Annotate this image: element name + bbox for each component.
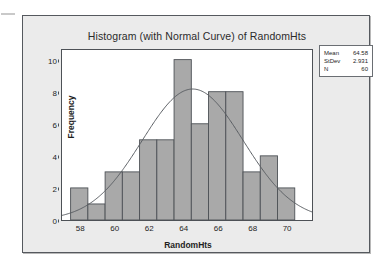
x-tick-label: 60 bbox=[110, 224, 119, 233]
x-tick-mark bbox=[148, 220, 151, 221]
statistics-value: 64.58 bbox=[353, 49, 368, 57]
histogram-bar bbox=[122, 172, 139, 220]
x-tick-label: 68 bbox=[248, 224, 257, 233]
y-tick-mark bbox=[58, 187, 59, 190]
x-tick-mark bbox=[79, 220, 82, 221]
chart-title: Histogram (with Normal Curve) of RandomH… bbox=[23, 30, 371, 42]
x-tick-mark bbox=[234, 220, 237, 221]
statistics-key: StDev bbox=[324, 57, 344, 65]
x-tick-mark bbox=[165, 220, 168, 221]
histogram-bar bbox=[243, 172, 260, 220]
y-tick-mark bbox=[58, 155, 59, 158]
x-axis-label: RandomHts bbox=[62, 240, 314, 250]
histogram-bar bbox=[71, 188, 88, 220]
histogram-bar bbox=[140, 140, 157, 220]
x-tick-mark bbox=[217, 220, 220, 221]
y-tick-label: 6 bbox=[53, 120, 57, 129]
x-tick-label: 64 bbox=[179, 224, 188, 233]
y-tick-mark bbox=[58, 59, 59, 62]
y-tick-label: 8 bbox=[53, 88, 57, 97]
x-tick-label: 66 bbox=[214, 224, 223, 233]
y-tick-label: 10 bbox=[48, 56, 57, 65]
y-tick-label: 4 bbox=[53, 152, 57, 161]
plot-inner bbox=[62, 50, 312, 220]
histogram-bar bbox=[88, 204, 105, 220]
x-tick-label: 58 bbox=[76, 224, 85, 233]
y-tick-mark bbox=[58, 91, 59, 94]
statistics-row: N60 bbox=[324, 65, 368, 73]
x-tick-mark bbox=[286, 220, 289, 221]
histogram-svg bbox=[62, 50, 312, 220]
histogram-bar bbox=[226, 92, 243, 220]
statistics-value: 60 bbox=[361, 65, 368, 73]
x-tick-mark bbox=[268, 220, 271, 221]
histogram-bar bbox=[278, 188, 295, 220]
histogram-bar bbox=[191, 124, 208, 220]
statistics-box: Mean64.58StDev2.931N60 bbox=[319, 45, 373, 77]
statistics-row: Mean64.58 bbox=[324, 49, 368, 57]
x-tick-mark bbox=[113, 220, 116, 221]
statistics-value: 2.931 bbox=[353, 57, 368, 65]
x-tick-mark bbox=[199, 220, 202, 221]
histogram-bar bbox=[157, 140, 174, 220]
x-tick-mark bbox=[96, 220, 99, 221]
x-tick-mark bbox=[182, 220, 185, 221]
histogram-bar bbox=[174, 60, 191, 220]
statistics-row: StDev2.931 bbox=[324, 57, 368, 65]
histogram-chart-root: Histogram (with Normal Curve) of RandomH… bbox=[0, 0, 390, 271]
plot-area: 0246810 58606264666870 Frequency RandomH… bbox=[61, 49, 313, 221]
statistics-key: Mean bbox=[324, 49, 343, 57]
chart-frame: Histogram (with Normal Curve) of RandomH… bbox=[22, 15, 370, 253]
x-tick-label: 70 bbox=[283, 224, 292, 233]
scan-artifact bbox=[1, 13, 15, 15]
y-tick-label: 2 bbox=[53, 184, 57, 193]
histogram-bar bbox=[105, 172, 122, 220]
y-tick-mark bbox=[58, 220, 59, 223]
statistics-key: N bbox=[324, 65, 332, 73]
y-tick-mark bbox=[58, 123, 59, 126]
x-tick-label: 62 bbox=[145, 224, 154, 233]
x-tick-mark bbox=[130, 220, 133, 221]
y-axis-label: Frequency bbox=[66, 82, 76, 152]
x-tick-mark bbox=[251, 220, 254, 221]
y-tick-label: 0 bbox=[53, 217, 57, 226]
histogram-bar bbox=[260, 156, 277, 220]
